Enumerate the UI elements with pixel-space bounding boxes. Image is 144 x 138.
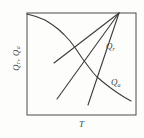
semenov-style-heat-diagram: Qr, Qa T Qr Qa — [0, 0, 144, 138]
y-axis-label: Qr, Qa — [12, 28, 21, 88]
plot-frame — [27, 13, 136, 115]
Qr-line-shallow — [54, 13, 119, 63]
x-axis-label: T — [27, 120, 136, 129]
series-group — [27, 13, 131, 105]
Qa-curve — [27, 14, 131, 101]
plot-canvas — [0, 0, 144, 138]
Qr-line-middle — [57, 13, 119, 99]
qr-lines-label: Qr — [106, 42, 115, 51]
qa-curve-label: Qa — [111, 78, 121, 87]
